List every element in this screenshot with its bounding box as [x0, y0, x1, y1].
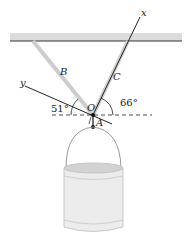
label-x: x	[141, 7, 147, 18]
point-o	[91, 113, 95, 117]
link-tick	[89, 117, 91, 124]
angle-arc-c	[101, 98, 113, 115]
label-angle-51: 51°	[51, 103, 69, 114]
label-y: y	[19, 77, 26, 88]
label-angle-66: 66°	[120, 97, 138, 108]
statics-diagram: x y B C O A 51° 66°	[0, 0, 186, 241]
angle-arc-b	[71, 99, 78, 115]
label-b: B	[59, 66, 67, 77]
bucket-rim	[64, 163, 123, 173]
bucket-handle	[66, 127, 121, 168]
label-c: C	[113, 71, 121, 82]
label-a: A	[95, 117, 103, 128]
ceiling	[10, 33, 182, 41]
label-o: O	[87, 102, 95, 113]
